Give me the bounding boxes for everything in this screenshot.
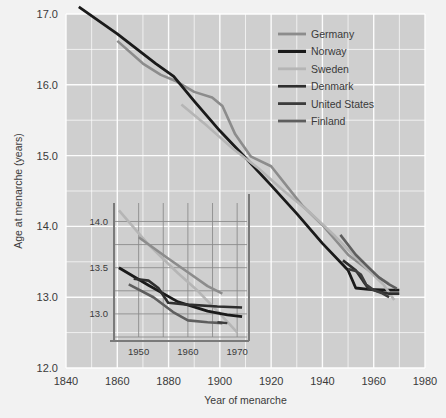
inset-y-tick-label: 13.5 bbox=[90, 262, 109, 273]
legend-label-sweden: Sweden bbox=[311, 63, 349, 75]
x-tick-label: 1920 bbox=[259, 375, 283, 387]
chart-figure: 19501960197013.013.514.01840186018801900… bbox=[0, 0, 446, 418]
y-tick-label: 13.0 bbox=[37, 291, 58, 303]
y-tick-label: 17.0 bbox=[37, 8, 58, 20]
inset-y-tick-label: 14.0 bbox=[90, 216, 109, 227]
y-axis-title: Age at menarche (years) bbox=[12, 133, 24, 249]
x-axis-title: Year of menarche bbox=[204, 394, 287, 406]
legend-label-united-states: United States bbox=[311, 98, 374, 110]
inset-x-tick-label: 1970 bbox=[227, 346, 248, 357]
legend-label-denmark: Denmark bbox=[311, 80, 354, 92]
inset-series-line-united-states bbox=[217, 322, 227, 323]
y-tick-label: 12.0 bbox=[37, 362, 58, 374]
x-tick-label: 1840 bbox=[54, 375, 78, 387]
inset-y-tick-label: 13.0 bbox=[90, 308, 109, 319]
inset-x-tick-label: 1960 bbox=[177, 346, 198, 357]
x-tick-label: 1980 bbox=[413, 375, 437, 387]
x-tick-label: 1860 bbox=[105, 375, 129, 387]
y-tick-label: 15.0 bbox=[37, 150, 58, 162]
x-tick-label: 1960 bbox=[361, 375, 385, 387]
x-tick-label: 1900 bbox=[208, 375, 232, 387]
legend-label-germany: Germany bbox=[311, 28, 355, 40]
y-tick-label: 16.0 bbox=[37, 79, 58, 91]
x-tick-label: 1880 bbox=[156, 375, 180, 387]
inset-x-tick-label: 1950 bbox=[128, 346, 149, 357]
x-tick-label: 1940 bbox=[310, 375, 334, 387]
legend-label-norway: Norway bbox=[311, 45, 347, 57]
chart-canvas: 19501960197013.013.514.01840186018801900… bbox=[0, 0, 446, 418]
legend-label-finland: Finland bbox=[311, 115, 346, 127]
y-tick-label: 14.0 bbox=[37, 220, 58, 232]
